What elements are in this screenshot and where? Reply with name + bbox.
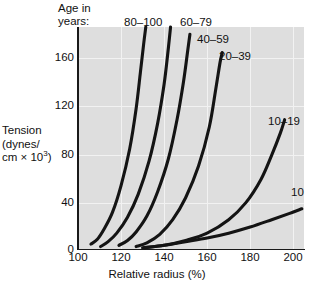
y-axis-title-line-1: Tension bbox=[2, 124, 66, 138]
legend-title-line-1: Age in bbox=[58, 2, 91, 15]
gridline-y-40 bbox=[78, 203, 304, 204]
x-tick-label-100: 100 bbox=[61, 252, 95, 264]
gridline-y-160 bbox=[78, 58, 304, 59]
y-axis-title-line-2: (dynes/ bbox=[2, 138, 66, 152]
gridline-x-140 bbox=[164, 27, 165, 249]
y-axis-title: Tension (dynes/ cm × 103) bbox=[2, 124, 66, 165]
curve-label-60-79: 60–79 bbox=[180, 16, 212, 28]
y-tick-label-120: 120 bbox=[46, 100, 74, 112]
y-axis-title-line-3: cm × 103) bbox=[2, 151, 66, 165]
x-tick-label-140: 140 bbox=[147, 252, 181, 264]
gridline-y-120 bbox=[78, 106, 304, 107]
plot-area bbox=[78, 27, 304, 249]
curve-label-10-19: 10–19 bbox=[268, 115, 300, 127]
x-axis-line bbox=[77, 249, 305, 251]
y-axis-title-close-paren: ) bbox=[48, 151, 52, 163]
gridline-x-200 bbox=[293, 27, 294, 249]
x-tick-label-180: 180 bbox=[233, 252, 267, 264]
curve-label-20-39: 20–39 bbox=[219, 50, 251, 62]
tension-vs-relative-radius-chart: 160 120 80 40 0 100 120 140 160 180 200 … bbox=[0, 0, 314, 289]
x-tick-label-200: 200 bbox=[276, 252, 310, 264]
curve-label-80-100: 80–100 bbox=[124, 16, 162, 28]
y-tick-label-40: 40 bbox=[46, 197, 74, 209]
gridline-y-80 bbox=[78, 155, 304, 156]
legend-title-line-2: years: bbox=[58, 15, 91, 28]
legend-title: Age in years: bbox=[58, 2, 91, 28]
gridline-x-160 bbox=[207, 27, 208, 249]
x-tick-label-120: 120 bbox=[104, 252, 138, 264]
curve-label-40-59: 40–59 bbox=[197, 33, 229, 45]
x-tick-label-160: 160 bbox=[190, 252, 224, 264]
curve-label-10: 10 bbox=[291, 186, 304, 198]
y-tick-label-160: 160 bbox=[46, 52, 74, 64]
x-axis-title: Relative radius (%) bbox=[0, 268, 314, 281]
y-axis-title-units: cm × 10 bbox=[2, 151, 43, 163]
gridline-x-120 bbox=[121, 27, 122, 249]
y-axis-line bbox=[77, 27, 79, 250]
